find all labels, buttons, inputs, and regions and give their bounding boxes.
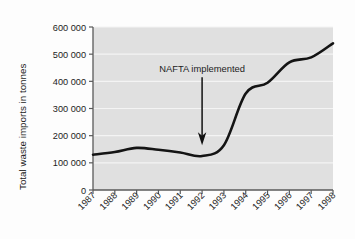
y-tick-label-0: 0 bbox=[81, 186, 86, 196]
y-tick-label-600000: 600 000 bbox=[53, 23, 86, 33]
annotation-label-nafta: NAFTA implemented bbox=[159, 63, 245, 74]
chart-figure: 600 000 500 000 400 000 300 000 200 000 … bbox=[0, 0, 355, 239]
y-tick-label-200000: 200 000 bbox=[53, 131, 86, 141]
y-tick-label-500000: 500 000 bbox=[53, 50, 86, 60]
y-tick-label-400000: 400 000 bbox=[53, 77, 86, 87]
y-tick-label-300000: 300 000 bbox=[53, 104, 86, 114]
line-chart-svg: 600 000 500 000 400 000 300 000 200 000 … bbox=[0, 0, 355, 239]
y-axis-title: Total waste imports in tonnes bbox=[17, 64, 28, 190]
y-tick-label-100000: 100 000 bbox=[53, 158, 86, 168]
